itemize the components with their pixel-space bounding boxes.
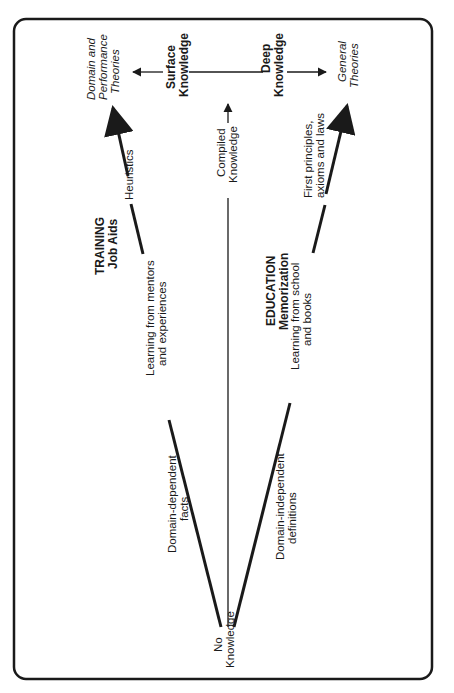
- no-knowledge-label: No Knowledge: [212, 611, 236, 668]
- svg-text:TRAINING: TRAINING: [93, 217, 107, 275]
- surface-knowledge-label: Surface Knowledge: [164, 33, 191, 97]
- svg-text:Theories: Theories: [348, 43, 360, 88]
- knowledge-diagram: Domain and Performance Theories Surface …: [0, 0, 454, 693]
- svg-text:Knowledge: Knowledge: [177, 33, 191, 97]
- domain-theories-label: Domain and Performance Theories: [85, 34, 121, 100]
- education-line-upper: [326, 106, 347, 194]
- diagram-frame: [14, 19, 432, 679]
- svg-text:First principles,: First principles,: [302, 121, 314, 198]
- school-label: Learning from school and books: [289, 263, 313, 370]
- compiled-knowledge-label: Compiled Knowledge: [215, 126, 239, 183]
- svg-text:Learning from mentors: Learning from mentors: [144, 260, 156, 376]
- svg-text:Performance: Performance: [97, 34, 109, 100]
- svg-text:facts: facts: [178, 496, 190, 521]
- first-principles-label: First principles, axioms and laws: [302, 113, 326, 198]
- svg-text:No: No: [212, 637, 224, 652]
- domain-dependent-label: Domain-dependent facts: [166, 454, 190, 553]
- svg-text:EDUCATION: EDUCATION: [264, 256, 278, 326]
- deep-knowledge-label: Deep Knowledge: [259, 33, 286, 97]
- svg-text:axioms and laws: axioms and laws: [314, 113, 326, 198]
- mentors-label: Learning from mentors and experiences: [144, 260, 168, 376]
- heuristics-label: Heuristics: [123, 149, 135, 200]
- training-label: TRAINING Job Aids: [93, 217, 120, 275]
- svg-text:definitions: definitions: [286, 492, 298, 544]
- domain-independent-label: Domain-independent definitions: [274, 452, 298, 560]
- svg-text:and experiences: and experiences: [156, 281, 168, 366]
- svg-text:Knowledge: Knowledge: [224, 611, 236, 668]
- svg-text:Domain and: Domain and: [85, 37, 97, 100]
- svg-text:Knowledge: Knowledge: [227, 126, 239, 183]
- general-theories-label: General Theories: [336, 41, 360, 88]
- svg-text:Surface: Surface: [164, 45, 178, 89]
- education-label: EDUCATION Memorization: [264, 253, 291, 330]
- svg-text:Domain-dependent: Domain-dependent: [166, 454, 178, 553]
- svg-text:Heuristics: Heuristics: [123, 149, 135, 200]
- svg-text:Learning from school: Learning from school: [289, 263, 301, 370]
- svg-text:and books: and books: [301, 293, 313, 346]
- svg-text:General: General: [336, 41, 348, 82]
- svg-text:Deep: Deep: [259, 44, 273, 73]
- svg-text:Domain-independent: Domain-independent: [274, 452, 286, 560]
- svg-text:Theories: Theories: [109, 49, 121, 94]
- education-line-mid: [313, 205, 325, 253]
- training-line-mid: [131, 204, 143, 254]
- svg-text:Job Aids: Job Aids: [106, 218, 120, 269]
- svg-text:Knowledge: Knowledge: [272, 33, 286, 97]
- svg-text:Compiled: Compiled: [215, 128, 227, 177]
